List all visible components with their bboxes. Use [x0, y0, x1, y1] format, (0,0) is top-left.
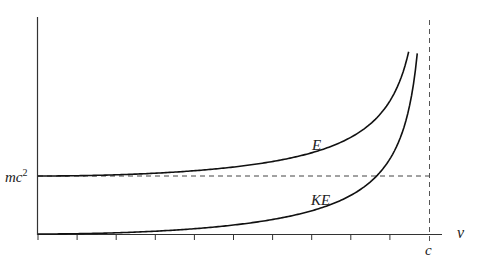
label-E: E — [312, 138, 321, 153]
x-axis-label-v: v — [457, 225, 464, 241]
label-KE: KE — [311, 193, 330, 208]
mc2-exponent: 2 — [23, 167, 28, 178]
total-energy-curve — [38, 52, 409, 176]
kinetic-energy-curve — [38, 53, 417, 234]
mc2-base: mc — [5, 169, 23, 185]
energy-velocity-chart — [0, 0, 480, 262]
x-axis-label-c: c — [425, 243, 432, 258]
label-mc2: mc2 — [5, 168, 28, 185]
axes — [37, 17, 442, 235]
